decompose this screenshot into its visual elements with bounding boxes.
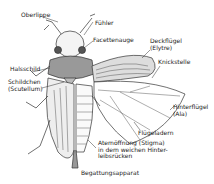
label-atemoeffnung: Atemöffnung (Stigma) in dem weichen Hint… — [98, 140, 168, 160]
label-deckfluegel: Deckflügel (Elytre) — [150, 38, 182, 51]
label-hinterfluegel-line2: (Ala) — [173, 111, 208, 118]
label-halsschild: Halsschild — [10, 66, 40, 73]
label-schildchen-line2: (Scutellum) — [8, 86, 43, 93]
label-begattungsapparat: Begattungsapparat — [81, 170, 139, 177]
label-deckfluegel-line2: (Elytre) — [150, 45, 182, 52]
label-fuehler: Fühler — [95, 20, 114, 27]
label-schildchen: Schildchen (Scutellum) — [8, 79, 43, 92]
label-hinterfluegel: Hinterflügel (Ala) — [173, 104, 208, 117]
label-facettenauge: Facettenauge — [93, 37, 134, 44]
label-fluegeladern: Flügeladern — [138, 130, 173, 137]
label-oberlippe: Oberlippe — [21, 12, 50, 19]
label-atem-line3: leibsrücken — [98, 153, 168, 160]
label-knickstelle: Knickstelle — [158, 59, 190, 66]
